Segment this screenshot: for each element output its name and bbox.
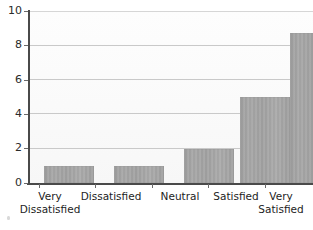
x-axis-label-dissatisfied: Dissatisfied [73,190,149,203]
bar-satisfied [240,97,290,183]
bar-chart: 10 8 6 4 2 0 Very Dissatisfied Dissatisf… [0,0,313,230]
y-axis-label-0: 0 [0,177,22,188]
y-axis-line [28,10,30,185]
y-axis-label-4: 4 [0,108,22,119]
x-tick-4 [208,184,209,188]
y-axis-label-2: 2 [0,142,22,153]
bar-neutral [184,149,234,183]
y-tick-0 [24,183,28,184]
plot-area [28,8,313,186]
x-axis-label-line1: Neutral [161,190,200,202]
bar-dissatisfied [114,166,164,183]
x-axis-label-line2: Dissatisfied [12,203,88,216]
bar-very-satisfied [290,33,313,183]
y-tick-6 [24,80,28,81]
bars-layer [28,11,313,183]
y-tick-8 [24,45,28,46]
y-tick-4 [24,114,28,115]
x-tick-1 [39,184,40,188]
y-axis-label-10: 10 [0,5,22,16]
y-axis-label-8: 8 [0,39,22,50]
x-axis-label-very-satisfied: Very Satisfied [248,190,313,215]
x-tick-5 [265,184,266,188]
scan-artifact-speck [7,216,10,220]
x-axis-line [27,183,313,185]
y-tick-2 [24,148,28,149]
y-tick-10 [24,11,28,12]
x-axis-label-line1: Very [269,190,292,202]
x-axis-label-line1: Dissatisfied [81,190,142,202]
x-tick-3 [152,184,153,188]
bar-very-dissatisfied [44,166,94,183]
x-axis-label-line1: Very [38,190,61,202]
x-axis-label-line2: Satisfied [248,203,313,216]
x-tick-2 [95,184,96,188]
y-axis-label-6: 6 [0,74,22,85]
